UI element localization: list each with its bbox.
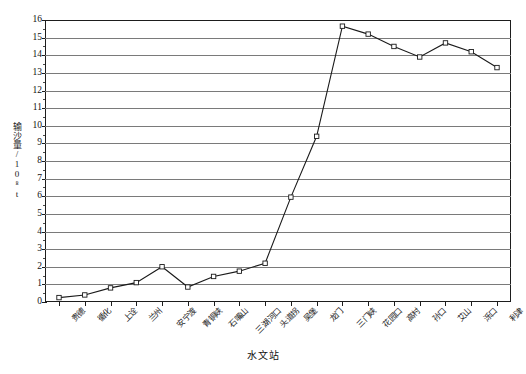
- x-tick-label-3: 兰州: [147, 306, 165, 324]
- series-polyline: [59, 26, 497, 297]
- x-tick-label-0: 贵德: [70, 306, 88, 324]
- x-axis-title: 水文站: [0, 347, 526, 362]
- y-tick-label-0: 0: [26, 297, 42, 307]
- data-point-marker-4: [160, 265, 164, 269]
- data-point-marker-14: [418, 55, 422, 59]
- data-point-marker-1: [83, 293, 87, 297]
- x-tick-label-13: 高村: [405, 306, 423, 324]
- data-point-marker-10: [314, 134, 318, 138]
- y-tick-label-6: 6: [26, 191, 42, 201]
- data-point-marker-11: [340, 24, 344, 28]
- chart-figure: 输沙量/10⁸t 012345678910111213141516 贵德循化上诠…: [0, 0, 526, 374]
- x-tick-label-14: 孙口: [430, 306, 448, 324]
- y-tick-label-14: 14: [26, 50, 42, 60]
- data-point-marker-9: [289, 195, 293, 199]
- data-point-marker-7: [237, 269, 241, 273]
- y-tick-label-2: 2: [26, 262, 42, 272]
- x-tick-label-12: 花园口: [381, 306, 404, 329]
- data-point-marker-5: [186, 285, 190, 289]
- plot-area: [45, 20, 511, 302]
- x-tick-label-1: 循化: [95, 306, 113, 324]
- x-tick-label-15: 艾山: [456, 306, 474, 324]
- data-point-marker-3: [134, 280, 138, 284]
- data-point-marker-15: [443, 41, 447, 45]
- data-point-marker-8: [263, 261, 267, 265]
- y-axis-title: 输沙量/10⁸t: [6, 112, 22, 208]
- x-tick-label-11: 三门峡: [355, 306, 378, 329]
- x-tick-label-9: 吴堡: [302, 306, 320, 324]
- x-tick-label-6: 石嘴山: [227, 306, 250, 329]
- y-tick-label-3: 3: [26, 244, 42, 254]
- y-tick-label-9: 9: [26, 138, 42, 148]
- y-tick-label-11: 11: [26, 103, 42, 113]
- y-tick-label-1: 1: [26, 279, 42, 289]
- data-point-marker-16: [469, 50, 473, 54]
- y-tick-label-8: 8: [26, 156, 42, 166]
- x-tick-label-16: 泺口: [482, 306, 500, 324]
- data-point-marker-13: [392, 44, 396, 48]
- y-tick-label-12: 12: [26, 86, 42, 96]
- x-tick-label-8: 头道拐: [278, 306, 301, 329]
- data-series-line: [45, 20, 511, 302]
- x-tick-label-2: 上诠: [121, 306, 139, 324]
- data-point-marker-17: [495, 65, 499, 69]
- x-tick-label-4: 安宁渡: [175, 306, 198, 329]
- y-tick-label-16: 16: [26, 15, 42, 25]
- data-point-marker-2: [108, 286, 112, 290]
- data-point-marker-12: [366, 32, 370, 36]
- y-tick-mark-0: [42, 302, 47, 303]
- x-axis-tick-labels: 贵德循化上诠兰州安宁渡青铜峡石嘴山三湖河口头道拐吴堡龙门三门峡花园口高村孙口艾山…: [45, 306, 515, 346]
- y-tick-label-7: 7: [26, 174, 42, 184]
- y-tick-label-13: 13: [26, 68, 42, 78]
- data-point-marker-6: [211, 274, 215, 278]
- y-tick-label-5: 5: [26, 209, 42, 219]
- x-tick-label-17: 利津: [508, 306, 526, 324]
- y-tick-label-4: 4: [26, 227, 42, 237]
- x-tick-label-10: 龙门: [327, 306, 345, 324]
- y-axis-tick-labels: 012345678910111213141516: [22, 20, 42, 302]
- x-tick-label-5: 青铜峡: [201, 306, 224, 329]
- data-point-marker-0: [57, 295, 61, 299]
- y-tick-label-15: 15: [26, 33, 42, 43]
- y-tick-label-10: 10: [26, 121, 42, 131]
